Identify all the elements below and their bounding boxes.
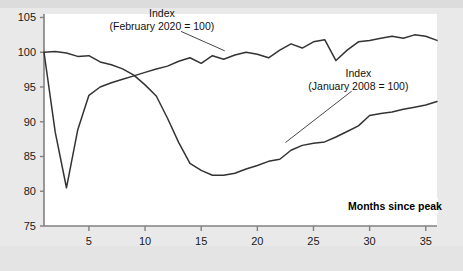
annotation-gfc-line2: (January 2008 = 100) <box>308 80 408 92</box>
y-axis: 7580859095100105 <box>18 11 44 232</box>
y-tick-label-105: 105 <box>18 11 36 23</box>
x-tick-label-5: 5 <box>86 235 92 247</box>
chart-page: 7580859095100105 5101520253035 Index(Feb… <box>0 0 463 271</box>
annotation-covid-line1: Index <box>149 7 175 19</box>
x-axis: 5101520253035 <box>44 226 437 247</box>
x-tick-label-10: 10 <box>139 235 151 247</box>
y-tick-label-100: 100 <box>18 46 36 58</box>
annotation-gfc-line1: Index <box>346 67 372 79</box>
annotation-covid-line2: (February 2020 = 100) <box>110 20 215 32</box>
x-tick-label-30: 30 <box>364 235 376 247</box>
y-tick-label-90: 90 <box>24 116 36 128</box>
plot-area-background <box>44 14 437 226</box>
axis-title-group: Months since peak <box>340 198 442 214</box>
x-tick-label-20: 20 <box>251 235 263 247</box>
x-tick-label-25: 25 <box>307 235 319 247</box>
line-chart: 7580859095100105 5101520253035 Index(Feb… <box>0 0 463 271</box>
y-tick-label-85: 85 <box>24 150 36 162</box>
x-tick-label-15: 15 <box>195 235 207 247</box>
y-tick-label-80: 80 <box>24 185 36 197</box>
y-tick-label-95: 95 <box>24 81 36 93</box>
y-tick-label-75: 75 <box>24 220 36 232</box>
xaxis-title: Months since peak <box>348 200 442 212</box>
x-tick-label-35: 35 <box>420 235 432 247</box>
